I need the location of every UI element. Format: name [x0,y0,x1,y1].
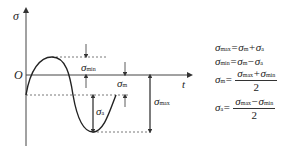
formula-sigma-max: σmax=σm+σa [215,42,264,53]
sigma-a-label: σa [96,106,104,117]
formula-sigma-m: σm= σmax+σmin2 [215,68,277,93]
y-axis-label: σ [13,10,19,22]
sigma-min-label: σmin [81,62,96,73]
formula-sigma-a: σa= σmax−σmin2 [215,96,275,121]
sigma-max-label: σmax [154,96,170,107]
x-axis-label: t [182,79,185,90]
formula-sigma-min: σmin=σm−σa [215,56,263,67]
stress-curve [26,57,116,132]
origin-label: O [14,69,23,81]
sigma-m-label: σm [117,78,127,89]
